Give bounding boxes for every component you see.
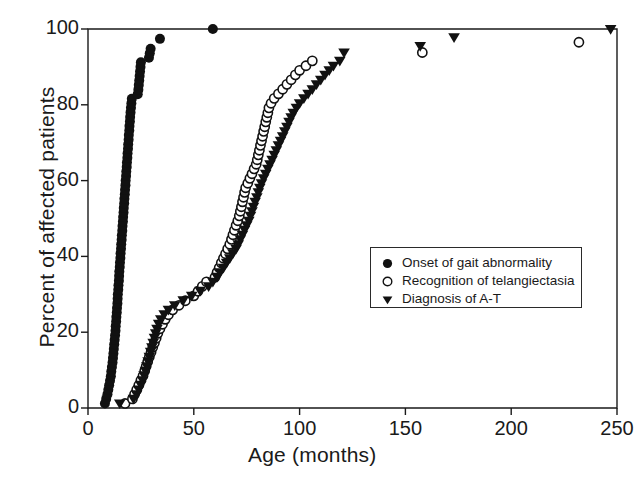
x-tick-label: 50	[164, 417, 224, 440]
data-point	[155, 34, 165, 44]
x-tick-label: 100	[270, 417, 330, 440]
open-circle-icon	[381, 275, 394, 288]
x-axis-title: Age (months)	[248, 443, 376, 467]
legend-item-gait: Onset of gait abnormality	[381, 254, 552, 272]
x-tick-label: 250	[587, 417, 640, 440]
series-3	[114, 25, 617, 409]
x-tick-label: 0	[58, 417, 118, 440]
legend-label-telangiectasia: Recognition of telangiectasia	[402, 272, 575, 290]
legend-label-gait: Onset of gait abnormality	[402, 254, 552, 272]
y-tick-label: 80	[19, 92, 79, 115]
data-point	[146, 44, 156, 54]
scatter-plot-figure: Percent of affected patients Age (months…	[0, 0, 640, 480]
series-1	[100, 24, 218, 408]
series-2	[120, 38, 583, 408]
y-tick-label: 40	[19, 243, 79, 266]
data-point	[338, 48, 350, 58]
legend-item-telangiectasia: Recognition of telangiectasia	[381, 272, 575, 290]
y-tick-label: 20	[19, 319, 79, 342]
filled-triangle-down-icon	[381, 293, 394, 306]
filled-circle-icon	[381, 257, 394, 270]
x-tick-label: 200	[481, 417, 541, 440]
x-tick-label: 150	[375, 417, 435, 440]
data-point	[208, 24, 218, 34]
data-point	[574, 38, 583, 47]
y-tick-label: 100	[19, 16, 79, 39]
data-point	[308, 56, 317, 65]
y-tick-label: 60	[19, 168, 79, 191]
legend: Onset of gait abnormality Recognition of…	[370, 247, 582, 308]
legend-label-diagnosis: Diagnosis of A-T	[402, 290, 501, 308]
y-tick-label: 0	[19, 395, 79, 418]
plot-canvas	[0, 0, 640, 480]
data-point	[605, 25, 617, 35]
legend-item-diagnosis: Diagnosis of A-T	[381, 290, 501, 308]
data-point	[448, 33, 460, 43]
